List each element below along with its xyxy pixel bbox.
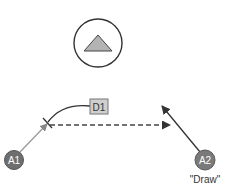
edge-a1-to-junction [19, 124, 47, 153]
triangle-up-button[interactable] [74, 19, 122, 67]
node-a2[interactable]: A2 [195, 150, 215, 170]
edge-junction-to-d1 [48, 106, 90, 122]
decision-box-d1[interactable]: D1 [90, 99, 108, 114]
edge-a2-up-left [162, 106, 200, 152]
d1-label: D1 [93, 102, 106, 113]
a1-label: A1 [8, 155, 21, 166]
node-a1[interactable]: A1 [5, 151, 24, 170]
a2-caption: "Draw" [190, 174, 221, 185]
diagram-canvas: D1 A1 A2 "Draw" [0, 0, 234, 191]
a2-label: A2 [199, 155, 212, 166]
